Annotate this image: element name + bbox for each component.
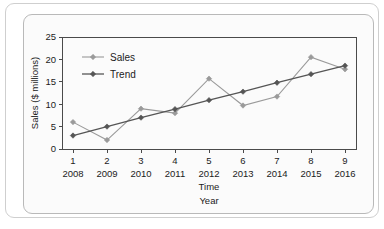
- y-axis-title: Sales ($ millions): [29, 57, 40, 129]
- x-tick-year-label: 2009: [96, 168, 117, 179]
- x-tick-year-label: 2010: [130, 168, 151, 179]
- x-tick-index-label: 5: [206, 155, 211, 166]
- plot-background: [62, 37, 356, 149]
- x-axis-title-line2: Year: [199, 195, 218, 206]
- x-axis-year-labels: 200820092010201120122013201420152016: [62, 168, 355, 179]
- line-chart: 0510152025 123456789 2008200920102011201…: [24, 15, 375, 215]
- y-axis-tick-labels: 0510152025: [45, 31, 56, 154]
- x-tick-index-label: 6: [240, 155, 245, 166]
- page-plate: 0510152025 123456789 2008200920102011201…: [5, 3, 379, 218]
- x-tick-year-label: 2008: [62, 168, 83, 179]
- y-tick-label: 25: [45, 31, 56, 42]
- x-tick-index-label: 7: [274, 155, 279, 166]
- x-tick-index-label: 4: [172, 155, 177, 166]
- legend-label-trend: Trend: [110, 69, 136, 80]
- x-tick-year-label: 2014: [266, 168, 287, 179]
- x-axis-ticks: [73, 149, 345, 153]
- x-tick-year-label: 2012: [198, 168, 219, 179]
- y-tick-label: 0: [51, 143, 56, 154]
- chart-canvas: 0510152025 123456789 2008200920102011201…: [24, 15, 375, 215]
- x-tick-index-label: 1: [70, 155, 75, 166]
- legend-label-sales: Sales: [110, 52, 135, 63]
- y-tick-label: 10: [45, 99, 56, 110]
- y-tick-label: 20: [45, 54, 56, 65]
- x-tick-index-label: 3: [138, 155, 143, 166]
- x-tick-index-label: 8: [308, 155, 313, 166]
- x-axis-title-line1: Time: [199, 181, 220, 192]
- x-tick-year-label: 2015: [300, 168, 321, 179]
- y-tick-label: 15: [45, 76, 56, 87]
- y-tick-label: 5: [51, 121, 56, 132]
- x-tick-index-label: 9: [342, 155, 347, 166]
- x-tick-index-label: 2: [104, 155, 109, 166]
- x-tick-year-label: 2016: [334, 168, 355, 179]
- x-axis-index-labels: 123456789: [70, 155, 347, 166]
- figure-card: 0510152025 123456789 2008200920102011201…: [23, 14, 374, 214]
- x-tick-year-label: 2013: [232, 168, 253, 179]
- x-tick-year-label: 2011: [165, 168, 185, 179]
